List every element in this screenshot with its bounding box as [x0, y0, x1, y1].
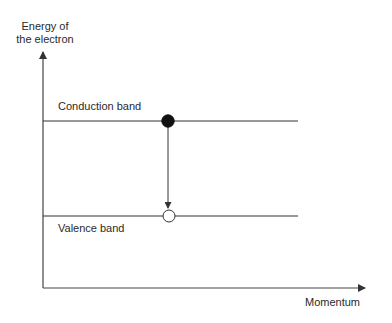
valence-band-label: Valence band: [58, 222, 124, 235]
hole-circle: [163, 210, 175, 222]
y-axis-title: Energy of the electron: [14, 20, 76, 46]
band-diagram: Energy of the electron Conduction band V…: [0, 0, 392, 323]
band-diagram-canvas: [0, 0, 392, 323]
electron-dot: [162, 115, 174, 127]
y-axis-title-line1: Energy of: [14, 20, 76, 33]
conduction-band-label: Conduction band: [58, 100, 141, 113]
x-axis-title: Momentum: [305, 296, 360, 309]
y-axis-title-line2: the electron: [14, 33, 76, 46]
